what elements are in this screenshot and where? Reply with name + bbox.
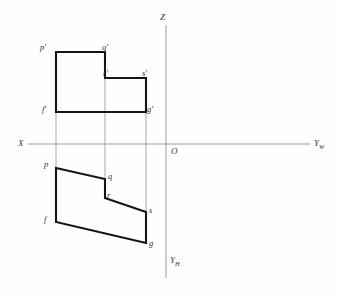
x-axis-label: X [18,139,24,148]
origin-label: O [171,147,178,156]
yw-axis-subscript: W [319,143,324,150]
vertex-label-f: f [44,215,46,224]
projection-lines-group [56,52,146,243]
vertex-label-r-prime: r' [103,69,108,78]
axes-group [28,25,310,278]
vertex-label-r: r [107,191,110,200]
vertex-label-p-prime: p' [40,43,46,52]
vertex-label-g: g [149,239,153,248]
vertex-label-f-prime: f' [42,105,46,114]
vertex-label-g-prime: g' [147,105,153,114]
top-view-outline [56,168,146,243]
drawing-canvas: Z X YW YH O p' q' r' s' g' f' p q r s g … [0,0,337,297]
yw-axis-label: YW [314,139,324,150]
vertex-label-s-prime: s' [142,69,147,78]
vertex-label-s: s [149,206,152,215]
yh-axis-label: YH [170,256,180,267]
yh-axis-subscript: H [175,260,180,267]
projection-drawing [0,0,337,297]
vertex-label-q-prime: q' [102,43,108,52]
front-view-outline [56,52,146,112]
vertex-label-p: p [44,160,48,169]
z-axis-label: Z [160,13,165,22]
vertex-label-q: q [108,172,112,181]
